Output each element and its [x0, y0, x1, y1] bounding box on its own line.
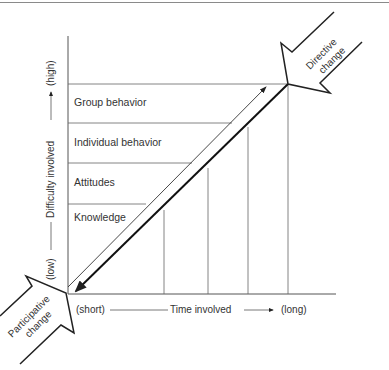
y-axis-title: Difficulty involved [45, 141, 56, 218]
y-axis-low: (low) [45, 258, 56, 280]
participative-change-label: Participative change [6, 293, 61, 348]
band-label-attitudes: Attitudes [74, 176, 115, 188]
x-axis-label: (short) Time involved (long) [76, 304, 307, 315]
band-label-group: Group behavior [74, 96, 147, 108]
x-axis-short: (short) [76, 304, 105, 315]
x-axis-long: (long) [281, 304, 307, 315]
x-axis-title: Time involved [170, 304, 231, 315]
change-cycles-diagram: Group behavior Individual behavior Attit… [0, 0, 389, 370]
y-axis-label: (low) Difficulty involved (high) [45, 60, 56, 280]
band-label-individual: Individual behavior [74, 136, 162, 148]
band-label-knowledge: Knowledge [74, 211, 126, 223]
y-axis-high: (high) [45, 60, 56, 86]
directive-change-label: Directive change [304, 36, 348, 80]
